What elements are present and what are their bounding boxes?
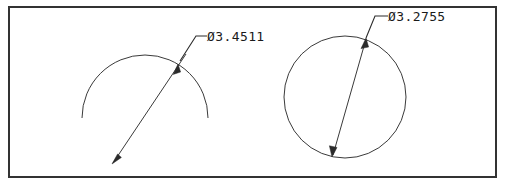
right-circle-feature: Ø3.2755	[284, 9, 446, 158]
circle-diameter-label: Ø3.2755	[388, 9, 446, 24]
cad-drawing-canvas: Ø3.4511 Ø3.2755	[0, 0, 511, 189]
left-arc-feature: Ø3.4511	[82, 29, 265, 164]
cad-drawing-svg: Ø3.4511 Ø3.2755	[0, 0, 511, 189]
circle-dimension-leader-line	[366, 16, 388, 38]
arc-outline	[82, 55, 208, 118]
circle-dimension-arrowhead-lower	[329, 146, 337, 157]
arc-dimension-arrowhead-lower	[112, 154, 121, 164]
circle-diameter-dimension-line	[333, 39, 366, 155]
circle-outline	[284, 36, 406, 158]
arc-diameter-label: Ø3.4511	[207, 29, 265, 44]
